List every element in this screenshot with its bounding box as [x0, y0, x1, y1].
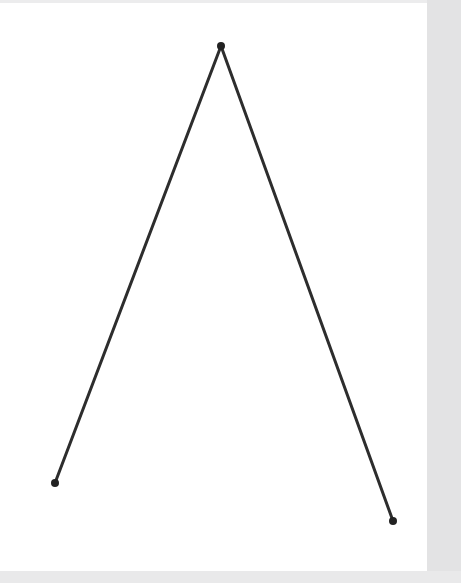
- polyline-stroke: [55, 46, 393, 521]
- vertex-marker-group: [51, 42, 397, 525]
- figure-root: [0, 0, 461, 583]
- vertex-marker-right-endpoint: [389, 517, 397, 525]
- vertex-marker-apex-vertex: [217, 42, 225, 50]
- polyline-plot: [0, 0, 461, 583]
- vertex-marker-left-endpoint: [51, 479, 59, 487]
